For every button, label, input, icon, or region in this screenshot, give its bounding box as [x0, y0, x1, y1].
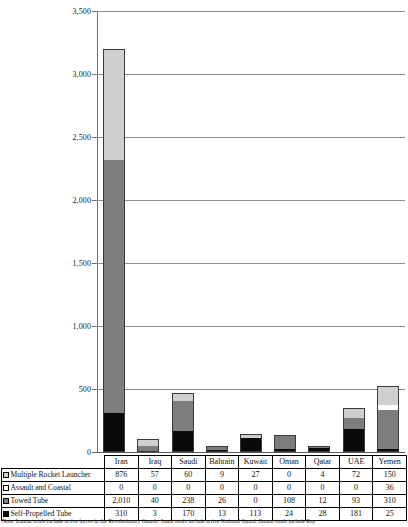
- table-row: Assault and Coastal0000000036: [2, 482, 407, 495]
- bar-segment: [343, 429, 365, 452]
- gridline-3000: [97, 74, 405, 75]
- table-cell: 0: [239, 482, 273, 495]
- table-row: Towed Tube2,010402382601081293310: [2, 495, 407, 508]
- table-cell: 40: [138, 495, 172, 508]
- table-cell: 27: [239, 469, 273, 482]
- table-cell: 0: [239, 495, 273, 508]
- bar-segment: [103, 49, 125, 159]
- bar-segment: [103, 413, 125, 452]
- y-tick-2000: [92, 200, 97, 201]
- gridline-1500: [97, 263, 405, 264]
- table-column-header-uae: UAE: [339, 456, 373, 469]
- table-cell: 0: [205, 482, 239, 495]
- table-cell: 0: [272, 469, 306, 482]
- table-cell: 9: [205, 469, 239, 482]
- y-tick-3500: [92, 11, 97, 12]
- table-cell: 238: [172, 495, 206, 508]
- bar-segment: [240, 438, 262, 452]
- gridline-1000: [97, 326, 405, 327]
- table-column-header-iran: Iran: [105, 456, 139, 469]
- bar-iraq: [137, 439, 159, 452]
- table-column-header-bahrain: Bahrain: [205, 456, 239, 469]
- bar-segment: [103, 160, 125, 413]
- table-column-header-oman: Oman: [272, 456, 306, 469]
- footnote: Note: Iranian totals include active forc…: [2, 518, 406, 525]
- y-tick-3000: [92, 74, 97, 75]
- bar-iran: [103, 49, 125, 452]
- legend-row-label: Assault and Coastal: [2, 482, 105, 495]
- table-cell: 0: [339, 482, 373, 495]
- y-axis-label: 1,500: [73, 259, 92, 268]
- table-column-header-qatar: Qatar: [306, 456, 340, 469]
- bar-segment: [274, 449, 296, 452]
- gridline-2500: [97, 137, 405, 138]
- stacked-bar-plot: 3,5003,0002,5002,0001,5001,0005000: [97, 11, 405, 452]
- bar-segment: [377, 410, 399, 449]
- y-tick-0: [92, 452, 97, 453]
- table-cell: 72: [339, 469, 373, 482]
- table-cell: 60: [172, 469, 206, 482]
- y-axis-label: 3,000: [73, 70, 92, 79]
- table-cell: 150: [373, 469, 407, 482]
- bar-segment: [137, 439, 159, 446]
- legend-swatch-icon: [3, 485, 9, 491]
- legend-row-label: Multiple Rocket Launcher: [2, 469, 105, 482]
- table-cell: 0: [138, 482, 172, 495]
- table-cell: 12: [306, 495, 340, 508]
- table-cell: 26: [205, 495, 239, 508]
- bar-oman: [274, 435, 296, 452]
- y-tick-1000: [92, 326, 97, 327]
- y-axis-label: 2,500: [73, 133, 92, 142]
- bar-segment: [308, 448, 330, 452]
- table-cell: 57: [138, 469, 172, 482]
- bar-saudi: [172, 393, 194, 452]
- legend-swatch-icon: [3, 511, 9, 517]
- table-cell: 4: [306, 469, 340, 482]
- table-header-row: IranIraqSaudiBahrainKuwaitOmanQatarUAEYe…: [2, 456, 407, 469]
- bar-segment: [377, 386, 399, 405]
- bar-segment: [172, 401, 194, 431]
- bar-segment: [377, 449, 399, 452]
- y-axis-label: 2,000: [73, 196, 92, 205]
- legend-swatch-icon: [3, 472, 9, 478]
- gridline-500: [97, 389, 405, 390]
- table-body: Multiple Rocket Launcher8765760927047215…: [2, 469, 407, 521]
- bar-segment: [274, 435, 296, 449]
- y-axis-label: 1,000: [73, 322, 92, 331]
- legend-swatch-icon: [3, 498, 9, 504]
- bar-segment: [343, 408, 365, 417]
- data-table: IranIraqSaudiBahrainKuwaitOmanQatarUAEYe…: [1, 455, 407, 521]
- table-column-header-yemen: Yemen: [373, 456, 407, 469]
- table-column-header-kuwait: Kuwait: [239, 456, 273, 469]
- table-cell: 0: [172, 482, 206, 495]
- gridline-3500: [97, 11, 405, 12]
- bar-bahrain: [206, 446, 228, 452]
- table-cell: 0: [306, 482, 340, 495]
- table-cell: 36: [373, 482, 407, 495]
- table-cell: 310: [373, 495, 407, 508]
- y-tick-500: [92, 389, 97, 390]
- table-column-header-saudi: Saudi: [172, 456, 206, 469]
- table-cell: 2,010: [105, 495, 139, 508]
- bar-segment: [206, 450, 228, 452]
- bar-segment: [137, 451, 159, 452]
- table-corner-cell: [2, 456, 105, 469]
- y-tick-1500: [92, 263, 97, 264]
- legend-row-label: Towed Tube: [2, 495, 105, 508]
- bar-yemen: [377, 386, 399, 452]
- bar-uae: [343, 408, 365, 452]
- table-cell: 93: [339, 495, 373, 508]
- bar-segment: [172, 431, 194, 452]
- bar-segment: [172, 393, 194, 401]
- y-axis-label: 500: [79, 385, 91, 394]
- gridline-0: [97, 452, 405, 453]
- table-row: Multiple Rocket Launcher8765760927047215…: [2, 469, 407, 482]
- gridline-2000: [97, 200, 405, 201]
- table-column-header-iraq: Iraq: [138, 456, 172, 469]
- bar-kuwait: [240, 434, 262, 452]
- y-axis-label: 3,500: [73, 7, 92, 16]
- table-cell: 876: [105, 469, 139, 482]
- table-cell: 108: [272, 495, 306, 508]
- y-tick-2500: [92, 137, 97, 138]
- bar-segment: [343, 418, 365, 430]
